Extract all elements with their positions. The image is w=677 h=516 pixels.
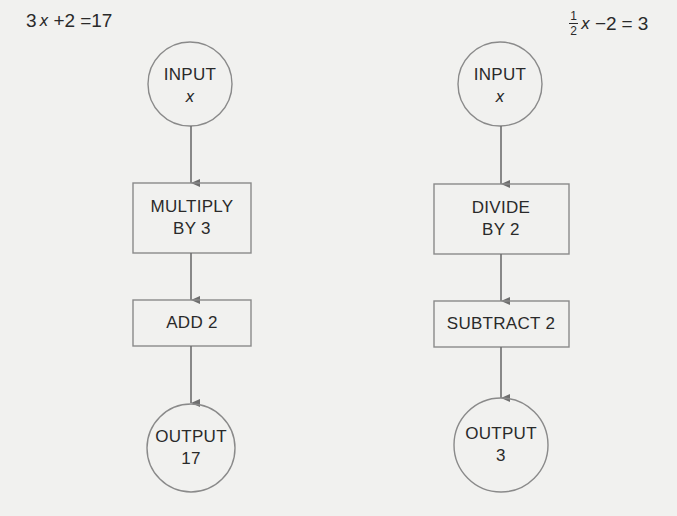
left-equation: 3 x +2 = 17	[26, 10, 112, 32]
left-eq-coef: 3	[26, 10, 37, 32]
right-eq-op: −2	[595, 13, 617, 35]
left-multiply-label: MULTIPLY BY 3	[150, 196, 233, 240]
left-output-label: OUTPUT 17	[155, 426, 227, 470]
left-eq-var: x	[40, 12, 49, 30]
right-eq-frac-num: 1	[570, 10, 577, 22]
left-add-label: ADD 2	[166, 312, 218, 334]
right-output-title: OUTPUT	[465, 423, 537, 445]
left-input-label: INPUT x	[164, 64, 217, 108]
left-eq-op: +2	[53, 10, 75, 32]
left-output-value: 17	[155, 448, 227, 470]
right-divide-line2: BY 2	[472, 219, 530, 241]
right-eq-frac-den: 2	[570, 25, 577, 37]
right-input-label: INPUT x	[474, 64, 527, 108]
right-eq-fraction: 1 2	[569, 10, 578, 37]
right-eq-rhs: 3	[638, 13, 649, 35]
right-eq-equals: =	[622, 13, 633, 35]
flowchart-canvas	[0, 0, 677, 516]
left-output-title: OUTPUT	[155, 426, 227, 448]
right-input-value: x	[474, 86, 527, 108]
right-divide-label: DIVIDE BY 2	[472, 197, 530, 241]
left-add-line1: ADD 2	[166, 312, 218, 334]
right-subtract-line1: SUBTRACT 2	[447, 313, 556, 335]
right-output-label: OUTPUT 3	[465, 423, 537, 467]
right-eq-var: x	[581, 15, 590, 33]
left-input-value: x	[164, 86, 217, 108]
right-output-value: 3	[465, 445, 537, 467]
right-equation: 1 2 x −2 = 3	[569, 10, 648, 37]
right-input-title: INPUT	[474, 64, 527, 86]
left-input-title: INPUT	[164, 64, 217, 86]
right-subtract-label: SUBTRACT 2	[447, 313, 556, 335]
left-multiply-line2: BY 3	[150, 218, 233, 240]
left-eq-rhs: 17	[91, 10, 112, 32]
left-multiply-line1: MULTIPLY	[150, 196, 233, 218]
right-divide-line1: DIVIDE	[472, 197, 530, 219]
left-eq-equals: =	[80, 10, 91, 32]
